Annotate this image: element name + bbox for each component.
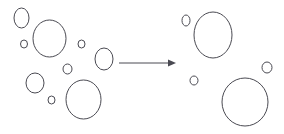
bubble-left-b2 (33, 20, 66, 57)
bubble-right-b5 (222, 78, 268, 126)
bubble-right-b4 (190, 76, 198, 85)
bubble-left-b4 (78, 40, 85, 48)
bubble-right-b1 (182, 15, 190, 26)
bubble-right-b3 (262, 62, 272, 73)
arrow-head-icon (168, 60, 176, 67)
bubble-coarsening-figure (0, 0, 284, 134)
transition-arrow (119, 60, 176, 67)
bubble-left-b3 (21, 40, 28, 48)
bubble-left-b8 (48, 96, 55, 104)
bubble-left-b1 (14, 8, 29, 28)
panel-before-state (14, 8, 113, 119)
bubble-left-b5 (95, 48, 113, 70)
bubble-left-b9 (66, 80, 101, 119)
panel-after-state (182, 12, 272, 126)
bubble-right-b2 (194, 12, 232, 58)
figure-canvas (0, 0, 284, 134)
bubble-left-b7 (26, 73, 44, 93)
bubble-left-b6 (63, 64, 72, 74)
